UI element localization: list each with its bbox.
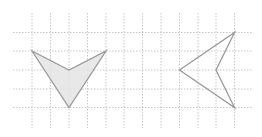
grid-diagram [0,0,262,137]
